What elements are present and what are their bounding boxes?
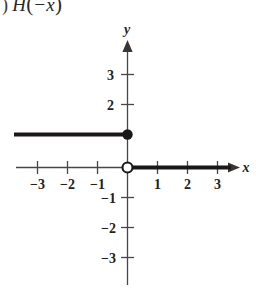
x-tick-label--3: −3 (30, 177, 45, 192)
y-tick-label-2: 2 (107, 98, 114, 113)
y-tick-label--1: −1 (101, 191, 116, 206)
x-tick-label--2: −2 (60, 177, 75, 192)
x-tick-label-3: 3 (214, 177, 221, 192)
y-axis-arrowhead (122, 40, 132, 52)
x-tick-label-2: 2 (184, 177, 191, 192)
closed-endpoint-marker (122, 129, 132, 139)
figure-root: )H(−x) (0, 0, 256, 288)
function-curve (14, 135, 231, 168)
x-tick-labels: −3 −2 −1 1 2 3 (30, 177, 221, 192)
y-tick-label--2: −2 (101, 221, 116, 236)
y-axis-label: y (122, 22, 131, 37)
x-tick-label--1: −1 (90, 177, 105, 192)
y-tick-label-3: 3 (107, 68, 114, 83)
x-axis-label: x (242, 160, 250, 175)
open-endpoint-marker (123, 163, 133, 173)
y-tick-label--3: −3 (101, 251, 116, 266)
step-function-plot: −3 −2 −1 1 2 3 3 2 −1 −2 −3 x y (0, 0, 256, 288)
x-tick-label-1: 1 (154, 177, 161, 192)
